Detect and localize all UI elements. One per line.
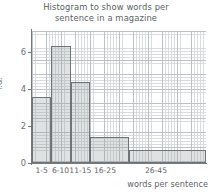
chart-title-line-1: Histogram to show words per [0, 2, 212, 13]
bar-1-5 [32, 97, 51, 163]
bar-26-45 [129, 150, 206, 163]
y-axis-title: f.d. [0, 77, 4, 90]
histogram-chart: Histogram to show words per sentence in … [0, 0, 212, 194]
y-tick-6 [28, 52, 32, 53]
x-axis-title: words per sentence [127, 179, 208, 189]
y-tick-label-2: 2 [2, 121, 26, 131]
y-tick-4 [28, 89, 32, 90]
y-tick-label-6: 6 [2, 47, 26, 57]
x-axis-line [31, 163, 207, 164]
y-axis-line [31, 29, 32, 165]
y-axis-labels: 6 4 2 0 [0, 0, 26, 194]
y-tick-2 [28, 126, 32, 127]
chart-title: Histogram to show words per sentence in … [0, 2, 212, 24]
x-tick-label-26-45: 26-45 [143, 166, 169, 175]
x-tick-label-6-10: 6-10 [50, 166, 71, 175]
plot-area [32, 31, 206, 163]
bar-6-10 [51, 46, 70, 163]
bars-container [32, 31, 206, 163]
chart-title-line-2: sentence in a magazine [0, 13, 212, 24]
y-tick-label-4: 4 [2, 84, 26, 94]
x-tick-label-11-15: 11-15 [69, 166, 91, 175]
x-tick-label-1-5: 1-5 [32, 166, 52, 175]
y-tick-label-0: 0 [2, 158, 26, 168]
bar-16-25 [90, 137, 129, 163]
y-tick-0 [28, 163, 32, 164]
x-tick-label-16-25: 16-25 [92, 166, 118, 175]
bar-11-15 [71, 82, 90, 163]
